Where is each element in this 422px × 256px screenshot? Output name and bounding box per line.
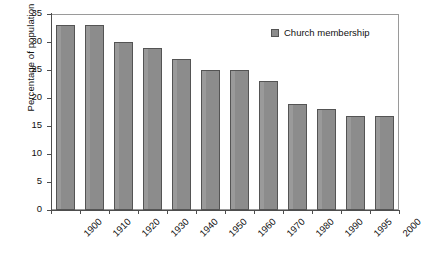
bar [259,81,278,210]
bar [143,48,162,210]
x-axis-tick-label: 1920 [139,216,162,239]
bar [375,116,394,210]
bar [114,42,133,210]
x-axis-tick-mark [109,210,110,214]
bar-highlight [376,117,380,209]
y-axis-tick-label: 25 [31,63,42,74]
x-axis-tick-label: 1950 [226,216,249,239]
bar-highlight [347,117,351,209]
x-axis-tick-label: 1970 [284,216,307,239]
x-axis-tick-label: 1960 [255,216,278,239]
bar-highlight [115,43,119,209]
x-axis-tick-mark [138,210,139,214]
x-axis-tick-mark [51,210,52,214]
y-axis-tick-label: 5 [37,175,42,186]
x-axis-tick-mark [399,210,400,214]
y-axis-tick-label: 20 [31,91,42,102]
x-axis-tick-mark [225,210,226,214]
x-axis-tick-label: 1995 [371,216,394,239]
x-axis-tick-mark [167,210,168,214]
x-axis-tick-label: 1940 [197,216,220,239]
bar-highlight [318,110,322,209]
y-axis-tick-label: 30 [31,35,42,46]
bar-highlight [289,105,293,209]
bar [230,70,249,210]
bar-highlight [260,82,264,209]
bar [172,59,191,210]
legend-swatch-icon [271,29,279,37]
bar-highlight [231,71,235,209]
legend-label: Church membership [284,27,370,38]
bars-layer [51,14,399,210]
bar [288,104,307,210]
x-axis-tick-label: 1980 [313,216,336,239]
y-axis-tick-label: 10 [31,147,42,158]
x-axis-tick-mark [312,210,313,214]
x-axis-tick-label: 1930 [168,216,191,239]
x-axis-tick-mark [254,210,255,214]
x-axis-tick-label: 1910 [110,216,133,239]
bar-highlight [144,49,148,209]
bar-highlight [173,60,177,209]
x-axis-tick-mark [196,210,197,214]
x-axis-tick-mark [283,210,284,214]
x-axis-tick-label: 1900 [81,216,104,239]
x-axis-tick-mark [341,210,342,214]
bar [346,116,365,210]
x-axis-tick-mark [370,210,371,214]
legend: Church membership [271,27,370,38]
y-axis-tick-label: 0 [37,203,42,214]
bar-highlight [86,26,90,209]
x-axis-tick-label: 1990 [342,216,365,239]
x-axis-tick-mark [80,210,81,214]
y-axis-tick-label: 15 [31,119,42,130]
bar [56,25,75,210]
bar-highlight [57,26,61,209]
bar [201,70,220,210]
y-axis-tick-label: 35 [31,7,42,18]
bar [317,109,336,210]
bar [85,25,104,210]
x-axis-tick-label: 2000 [400,216,422,239]
bar-highlight [202,71,206,209]
